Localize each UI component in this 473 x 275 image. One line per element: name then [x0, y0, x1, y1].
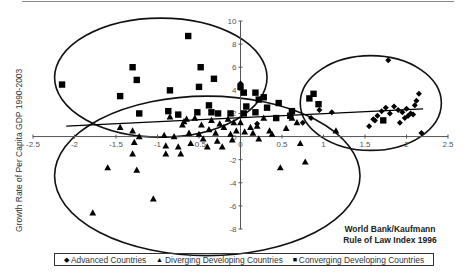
x-tick-label: -2: [71, 140, 79, 149]
point-advanced: [379, 108, 385, 114]
point-converging: [211, 76, 217, 82]
point-advanced: [366, 123, 372, 129]
point-converging: [196, 84, 202, 90]
point-advanced: [404, 106, 410, 112]
point-diverging: [233, 127, 240, 133]
point-advanced: [391, 104, 397, 110]
point-converging: [134, 77, 140, 83]
point-diverging: [131, 139, 138, 145]
point-diverging: [150, 195, 157, 201]
point-converging: [165, 108, 171, 114]
point-converging: [273, 115, 279, 121]
point-diverging: [117, 124, 124, 130]
legend-item-converging: ■ Converging Developing Countries: [293, 255, 424, 265]
point-diverging: [129, 150, 136, 156]
point-advanced: [329, 109, 335, 115]
point-converging: [129, 64, 135, 70]
x-tick-label: 0.5: [276, 140, 288, 149]
point-advanced: [316, 107, 322, 113]
x-tick-label: 2: [404, 140, 409, 149]
group-ellipse: [55, 96, 360, 255]
y-tick-label: 10: [228, 17, 237, 26]
point-converging: [136, 110, 142, 116]
square-icon: ■: [293, 256, 297, 263]
point-diverging: [277, 164, 284, 170]
x-tick-label: 0: [238, 140, 243, 149]
point-diverging: [177, 150, 184, 156]
y-tick-label: -8: [229, 225, 237, 234]
y-tick-label: -2: [229, 156, 237, 165]
point-diverging: [104, 164, 111, 170]
legend-label: Advanced Countries: [71, 255, 146, 265]
point-converging: [227, 110, 233, 116]
x-tick-label: -1.5: [109, 140, 123, 149]
point-diverging: [133, 166, 140, 172]
x-tick-label: -2.5: [26, 140, 40, 149]
point-diverging: [129, 127, 136, 133]
group-ellipse: [55, 18, 267, 137]
point-diverging: [89, 209, 96, 215]
point-converging: [241, 89, 247, 95]
point-diverging: [161, 132, 168, 138]
point-converging: [175, 111, 181, 117]
point-converging: [243, 103, 249, 109]
point-converging: [310, 91, 316, 97]
point-converging: [59, 81, 65, 87]
point-diverging: [219, 143, 226, 149]
point-converging: [215, 110, 221, 116]
point-diverging: [208, 117, 215, 123]
point-diverging: [283, 125, 290, 131]
legend-item-diverging: ▲ Diverging Developing Countries: [156, 255, 283, 265]
y-tick-label: 8: [232, 40, 237, 49]
x-axis-label-line-1: World Bank/Kaufmann: [345, 224, 436, 234]
point-converging: [256, 96, 262, 102]
point-converging: [315, 101, 321, 107]
point-diverging: [302, 158, 309, 164]
y-tick-label: 4: [232, 86, 237, 95]
point-converging: [252, 109, 258, 115]
point-diverging: [162, 150, 169, 156]
point-diverging: [297, 140, 304, 146]
point-diverging: [206, 126, 213, 132]
point-advanced: [397, 120, 403, 126]
point-advanced: [383, 105, 389, 111]
point-diverging: [198, 121, 205, 127]
point-converging: [197, 64, 203, 70]
point-diverging: [186, 129, 193, 135]
diamond-icon: ◆: [64, 256, 69, 264]
x-tick-label: 2.5: [442, 140, 454, 149]
x-tick-label: 1.5: [359, 140, 371, 149]
y-tick-label: -4: [229, 179, 237, 188]
y-tick-label: 6: [232, 63, 237, 72]
point-diverging: [247, 124, 254, 130]
point-converging: [264, 104, 270, 110]
point-converging: [206, 102, 212, 108]
point-converging: [167, 87, 173, 93]
point-converging: [117, 93, 123, 99]
point-diverging: [216, 120, 223, 126]
point-converging: [185, 33, 191, 39]
x-tick-label: 1: [321, 140, 326, 149]
point-diverging: [250, 129, 257, 135]
point-converging: [194, 109, 200, 115]
y-tick-label: -6: [229, 202, 237, 211]
point-diverging: [241, 128, 248, 134]
point-converging: [289, 108, 295, 114]
point-advanced: [387, 110, 393, 116]
point-converging: [237, 84, 243, 90]
point-converging: [241, 110, 247, 116]
point-advanced: [416, 91, 422, 97]
point-diverging: [214, 138, 221, 144]
triangle-icon: ▲: [156, 256, 163, 263]
point-converging: [208, 109, 214, 115]
point-converging: [275, 100, 281, 106]
point-converging: [252, 89, 258, 95]
x-axis-label-line-2: Rule of Law Index 1996: [343, 235, 437, 245]
scatter-chart: -2.5-2-1.5-1-0.500.511.522.5 -8-6-4-2024…: [0, 0, 473, 275]
point-diverging: [212, 129, 219, 135]
point-diverging: [260, 114, 267, 120]
point-converging: [380, 117, 386, 123]
legend: ◆ Advanced Countries ▲ Diverging Develop…: [54, 253, 434, 266]
point-diverging: [162, 142, 169, 148]
legend-item-advanced: ◆ Advanced Countries: [64, 255, 146, 265]
